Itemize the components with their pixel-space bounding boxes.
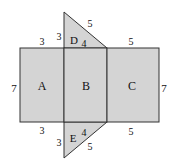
dim-a-bottom: 3 xyxy=(40,125,45,136)
face-label-d: D xyxy=(70,34,78,46)
dim-e-horizontal: 4 xyxy=(82,127,87,138)
dim-c-bottom: 5 xyxy=(129,126,134,137)
dim-a-top: 3 xyxy=(40,36,45,47)
dim-right-height: 7 xyxy=(161,82,167,94)
dim-left-height: 7 xyxy=(11,82,17,94)
dim-c-top: 5 xyxy=(129,36,134,47)
dim-d-horizontal: 4 xyxy=(82,38,87,49)
face-label-e: E xyxy=(70,132,77,144)
dim-e-vertical: 3 xyxy=(57,137,62,148)
dim-e-hypotenuse: 5 xyxy=(88,141,93,152)
face-label-c: C xyxy=(128,79,136,93)
face-label-b: B xyxy=(82,79,90,93)
dim-d-hypotenuse: 5 xyxy=(88,18,93,29)
dim-d-vertical: 3 xyxy=(57,31,62,42)
prism-net-diagram: A B C D E 7 7 3 3 5 5 3 4 5 3 4 5 xyxy=(0,0,174,165)
face-label-a: A xyxy=(38,79,47,93)
